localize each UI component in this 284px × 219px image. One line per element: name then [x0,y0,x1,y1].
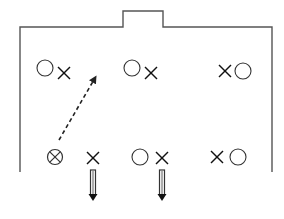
down-arrow-icon [89,170,98,201]
circle-marker-icon [124,60,140,76]
x-marker-icon [145,67,157,79]
court-boundary-line [20,11,272,172]
circle-marker-icon [235,63,251,79]
x-marker-icon [87,152,99,164]
formation-diagram [0,0,284,219]
circle-marker-icon [132,149,148,165]
circle-marker-icon [37,60,53,76]
x-marker-icon [156,152,168,164]
x-marker-icon [58,67,70,79]
down-arrow-icon [158,170,167,201]
movement-arrows [59,78,167,201]
x-marker-icon [219,65,231,77]
court-outline [20,11,272,172]
circle-marker-icon [230,149,246,165]
player-markers [37,60,251,165]
circle-x-marker-icon [48,150,63,165]
dashed-arrow-icon [59,78,95,140]
x-marker-icon [211,151,223,163]
